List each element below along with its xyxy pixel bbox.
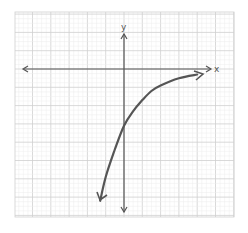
function-curve [97,71,203,201]
y-axis-label: y [121,22,127,32]
x-axis-label: x [214,64,220,74]
graph-canvas: x y [0,0,248,233]
